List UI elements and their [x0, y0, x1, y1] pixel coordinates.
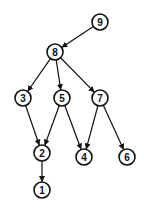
node-2: 2	[34, 145, 50, 161]
node-label: 4	[81, 152, 87, 163]
edge-7-to-4	[86, 106, 98, 149]
edge-8-to-7	[61, 58, 94, 92]
edge-8-to-5	[56, 60, 61, 90]
node-9: 9	[92, 14, 108, 30]
node-1: 1	[34, 182, 50, 198]
edge-5-to-4	[65, 105, 81, 149]
node-label: 3	[20, 93, 26, 104]
node-7: 7	[92, 90, 108, 106]
node-5: 5	[54, 90, 70, 106]
node-8: 8	[47, 44, 63, 60]
node-label: 6	[124, 152, 130, 163]
node-label: 1	[39, 185, 45, 196]
node-label: 7	[97, 93, 103, 104]
edge-8-to-3	[28, 59, 51, 91]
node-label: 5	[59, 93, 65, 104]
dag-diagram: 983572461	[0, 0, 144, 213]
edge-3-to-2	[26, 106, 40, 145]
node-4: 4	[76, 149, 92, 165]
node-3: 3	[15, 90, 31, 106]
node-6: 6	[119, 149, 135, 165]
edge-5-to-2	[45, 106, 59, 145]
edge-7-to-6	[103, 105, 123, 149]
node-label: 8	[52, 47, 58, 58]
nodes-group: 983572461	[15, 14, 135, 198]
edge-9-to-8	[62, 26, 93, 47]
node-label: 9	[97, 17, 103, 28]
node-label: 2	[39, 148, 45, 159]
